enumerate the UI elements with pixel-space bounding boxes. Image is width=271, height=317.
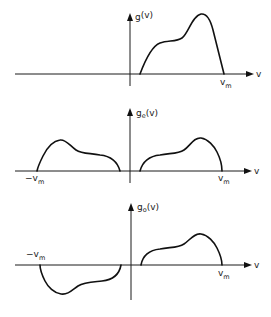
- y-axis-label: go(v): [137, 202, 159, 214]
- go-curve-left: [40, 265, 121, 294]
- y-axis-arrow-icon: [128, 203, 134, 211]
- panel-g: g(v) v vm: [15, 10, 262, 90]
- panel-ge: ge(v) v vm −vm: [15, 108, 260, 186]
- vm-label: vm: [218, 173, 230, 186]
- ge-curve-left: [37, 140, 120, 171]
- x-axis-label: v: [254, 166, 260, 176]
- y-axis-label: ge(v): [136, 108, 158, 120]
- panel-go: go(v) v vm −vm: [15, 202, 260, 300]
- y-axis-arrow-icon: [127, 108, 133, 116]
- go-curve-right: [141, 234, 222, 265]
- vm-label: vm: [220, 77, 232, 90]
- y-axis-label: g(v): [135, 10, 153, 22]
- x-axis-label: v: [256, 69, 262, 79]
- vm-label: vm: [218, 268, 230, 281]
- ge-curve-right: [140, 138, 222, 171]
- function-extension-diagram: g(v) v vm ge(v) v vm −vm go(v) v vm −vm: [0, 0, 271, 317]
- neg-vm-label: −vm: [25, 173, 44, 186]
- y-axis-arrow-icon: [127, 13, 133, 21]
- neg-vm-label: −vm: [26, 249, 45, 262]
- x-axis-label: v: [254, 260, 260, 270]
- x-axis-arrow-icon: [246, 71, 254, 77]
- x-axis-arrow-icon: [244, 262, 252, 268]
- g-curve: [140, 14, 224, 74]
- x-axis-arrow-icon: [244, 168, 252, 174]
